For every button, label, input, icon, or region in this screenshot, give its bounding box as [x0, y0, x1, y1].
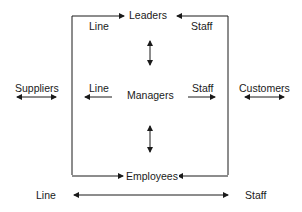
suppliers-node: Suppliers — [15, 82, 59, 94]
customers-node: Customers — [239, 82, 290, 94]
top-line-label: Line — [89, 20, 109, 32]
bottom-line-label: Line — [36, 189, 56, 201]
bottom-staff-label: Staff — [245, 189, 266, 201]
top-staff-label: Staff — [191, 20, 212, 32]
mid-staff-label: Staff — [192, 82, 213, 94]
leaders-node: Leaders — [129, 9, 167, 21]
mid-line-label: Line — [89, 82, 109, 94]
employees-node: Employees — [125, 170, 179, 182]
staff-frame-right — [177, 16, 228, 175]
line-frame-left — [72, 16, 124, 175]
managers-node: Managers — [127, 89, 174, 101]
